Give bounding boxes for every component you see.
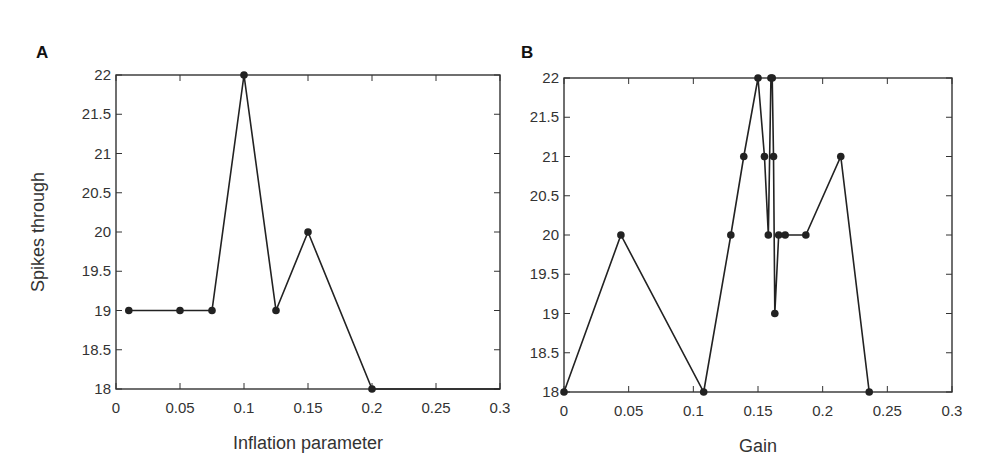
y-tick-label: 18.5: [530, 344, 559, 361]
x-axis-label-b: Gain: [739, 436, 777, 456]
data-point: [368, 385, 376, 393]
data-point: [125, 307, 133, 315]
y-tick-label: 21.5: [530, 108, 559, 125]
y-tick-label: 18: [94, 380, 111, 397]
y-tick-label: 19: [542, 305, 559, 322]
data-point: [837, 153, 845, 161]
x-tick-label: 0.3: [942, 402, 963, 419]
x-tick-label: 0.05: [614, 402, 643, 419]
y-tick-label: 19.5: [82, 262, 111, 279]
data-point: [304, 228, 312, 236]
data-point: [740, 153, 748, 161]
data-point: [176, 307, 184, 315]
x-tick-label: 0.05: [165, 399, 194, 416]
data-point: [240, 71, 248, 79]
y-tick-label: 21.5: [82, 105, 111, 122]
data-line-a: [129, 75, 500, 389]
y-tick-label: 18.5: [82, 341, 111, 358]
x-tick-label: 0.3: [490, 399, 511, 416]
data-point: [700, 388, 708, 396]
x-tick-label: 0.15: [293, 399, 322, 416]
y-tick-label: 22: [542, 69, 559, 86]
y-tick-label: 21: [94, 145, 111, 162]
data-line-b: [564, 78, 869, 392]
x-tick-label: 0.15: [743, 402, 772, 419]
data-point: [272, 307, 280, 315]
x-axis-label-a: Inflation parameter: [233, 433, 383, 453]
data-point: [770, 153, 778, 161]
data-point: [765, 231, 773, 239]
x-tick-label: 0.25: [873, 402, 902, 419]
y-axis-label-a: Spikes through: [28, 172, 48, 292]
data-point: [865, 388, 873, 396]
y-tick-label: 20: [542, 226, 559, 243]
y-tick-label: 19: [94, 302, 111, 319]
data-point: [802, 231, 810, 239]
data-point: [617, 231, 625, 239]
data-point: [761, 153, 769, 161]
y-tick-label: 22: [94, 66, 111, 83]
x-tick-label: 0.2: [362, 399, 383, 416]
x-tick-label: 0.2: [812, 402, 833, 419]
y-tick-label: 20: [94, 223, 111, 240]
y-tick-label: 20.5: [82, 184, 111, 201]
x-tick-label: 0.1: [234, 399, 255, 416]
data-point: [771, 310, 779, 318]
data-point: [208, 307, 216, 315]
x-tick-label: 0.25: [421, 399, 450, 416]
data-point: [775, 231, 783, 239]
data-point: [754, 74, 762, 82]
x-tick-label: 0: [560, 402, 568, 419]
x-tick-label: 0: [112, 399, 120, 416]
data-point: [727, 231, 735, 239]
data-point: [768, 74, 776, 82]
x-tick-label: 0.1: [683, 402, 704, 419]
panel-label-b: B: [521, 43, 533, 62]
data-point: [781, 231, 789, 239]
y-tick-label: 19.5: [530, 265, 559, 282]
data-point: [560, 388, 568, 396]
y-tick-label: 21: [542, 148, 559, 165]
y-tick-label: 20.5: [530, 187, 559, 204]
y-tick-label: 18: [542, 383, 559, 400]
figure: A00.050.10.150.20.250.31818.51919.52020.…: [0, 0, 992, 474]
panel-label-a: A: [36, 43, 48, 62]
